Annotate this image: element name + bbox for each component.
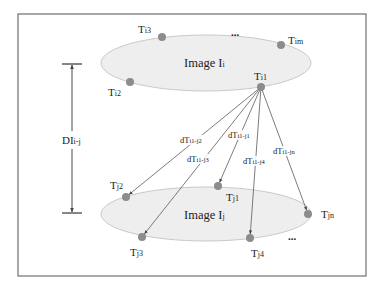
node-Tj2-dot-icon xyxy=(122,193,130,201)
node-Ti2-dot-icon xyxy=(126,78,134,86)
edge-label-i1-j4-sub: i1-j4 xyxy=(252,158,265,165)
edge-label-i1-j1-sub: i1-j1 xyxy=(237,132,249,139)
edge-label-i1-j4: dTi1-j4 xyxy=(243,156,265,166)
edge-label-i1-jn-sub: i1-jn xyxy=(282,148,295,155)
node-Tjn-dot-icon xyxy=(304,210,312,218)
edge-label-i1-j3-sub: i1-j3 xyxy=(196,156,208,163)
node-label-Ti1-sub: i1 xyxy=(261,73,267,82)
node-label-Tjn-sub: jn xyxy=(327,211,334,220)
edge-label-i1-j2: dTi1-j2 xyxy=(180,135,202,145)
edge-label-i1-j3: dTi1-j3 xyxy=(187,154,209,164)
node-Tim-dot-icon xyxy=(277,41,285,49)
edge-label-i1-j2-sub: i1-j2 xyxy=(189,137,201,144)
distance-label-sub: i-j xyxy=(74,137,81,146)
node-label-Tj4-sub: j4 xyxy=(257,250,264,259)
image_j-title: Image Ij xyxy=(184,208,225,222)
image_i-ellipsis: ... xyxy=(231,26,240,38)
image-j-group: Image Ij... xyxy=(101,187,311,242)
node-label-Tj3-sub: j3 xyxy=(136,249,143,258)
node-Tj4-dot-icon xyxy=(246,234,254,242)
node-label-Tj2-sub: j2 xyxy=(116,182,123,191)
node-label-Ti2-sub: i2 xyxy=(115,89,121,98)
image_j-title-main: Image I xyxy=(184,208,223,222)
image_j-title-sub: j xyxy=(222,212,225,221)
node-Ti1-dot-icon xyxy=(257,83,265,91)
node-label-Tj1-sub: j1 xyxy=(232,194,239,203)
node-Tj3-dot-icon xyxy=(138,233,146,241)
node-label-Ti3-sub: i3 xyxy=(145,26,151,35)
edge-label-i1-jn: dTi1-jn xyxy=(273,146,295,156)
distance-label-main: DI xyxy=(62,134,74,146)
image_i-title-main: Image I xyxy=(184,56,223,70)
edge-label-i1-j1: dTi1-j1 xyxy=(228,130,250,140)
node-label-Tim-sub: im xyxy=(295,37,304,46)
node-Tj1-dot-icon xyxy=(214,182,222,190)
image_j-ellipsis: ... xyxy=(288,230,297,242)
image_i-title: Image Ii xyxy=(184,56,226,70)
image-matching-diagram: DIi-j Image Ii... Image Ij... dTi1-j2dTi… xyxy=(0,0,381,293)
node-Ti3-dot-icon xyxy=(158,33,166,41)
